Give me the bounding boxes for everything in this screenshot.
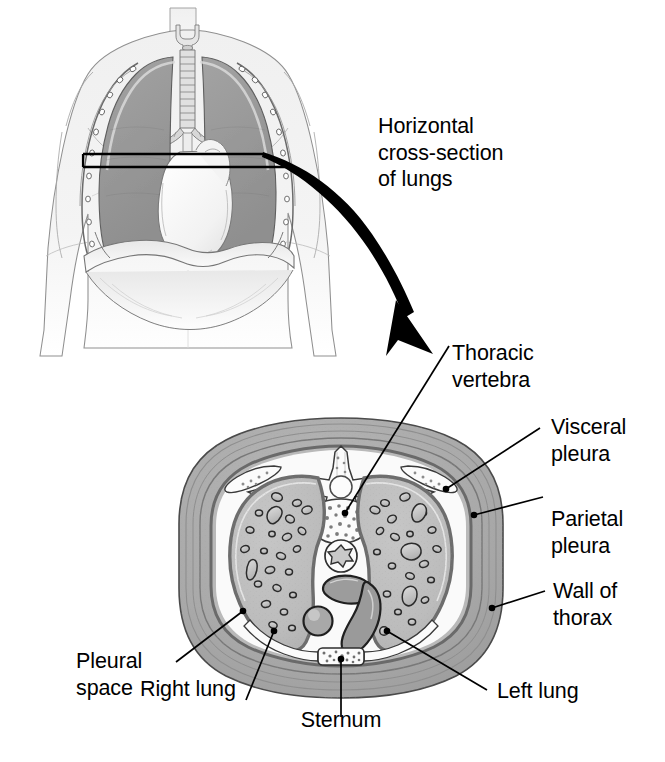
label-pleural-space: Pleural space	[76, 648, 142, 701]
label-parietal-pleura: Parietal pleura	[551, 506, 623, 559]
label-left-lung: Left lung	[497, 678, 579, 705]
vena-cava	[304, 607, 333, 636]
label-sternum: Sternum	[279, 707, 403, 734]
diagram-canvas: Horizontal cross-section of lungs Thorac…	[0, 0, 665, 762]
label-thoracic-vertebra: Thoracic vertebra	[452, 340, 534, 393]
callout-horizontal-cross-section: Horizontal cross-section of lungs	[378, 113, 503, 193]
label-right-lung: Right lung	[140, 676, 236, 703]
esophagus	[325, 540, 357, 572]
label-wall-of-thorax: Wall of thorax	[553, 578, 617, 631]
label-visceral-pleura: Visceral pleura	[551, 414, 626, 467]
